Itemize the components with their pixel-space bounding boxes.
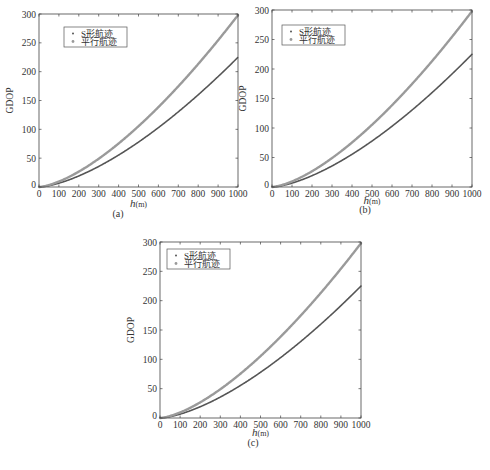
series-s-track <box>160 286 361 418</box>
y-tick-label: 0 <box>152 411 157 421</box>
y-tick-label: 200 <box>143 296 158 306</box>
y-axis-label: GDOP <box>126 317 136 343</box>
x-tick-label: 0 <box>158 420 163 430</box>
x-tick-label: 700 <box>294 420 309 430</box>
legend-dot-icon <box>175 255 177 257</box>
legend: S形航迹平行航迹 <box>167 249 230 269</box>
x-tick-label: 900 <box>334 420 349 430</box>
x-tick-label: 800 <box>314 420 329 430</box>
x-tick-label: 200 <box>193 420 208 430</box>
caption-c: (c) <box>233 437 273 448</box>
y-tick-label: 250 <box>143 267 158 277</box>
y-tick-label: 50 <box>148 384 158 394</box>
series-parallel-track <box>160 243 361 418</box>
caption-a: (a) <box>98 208 138 219</box>
y-tick-label: 150 <box>143 326 158 336</box>
x-tick-label: 100 <box>173 420 188 430</box>
x-tick-label: 600 <box>273 420 288 430</box>
chart-svg: 0100200300400500600700800900100005010015… <box>0 0 490 470</box>
x-tick-label: 400 <box>233 420 248 430</box>
legend-label: 平行航迹 <box>184 258 220 269</box>
x-tick-label: 300 <box>213 420 228 430</box>
y-tick-label: 300 <box>143 238 158 248</box>
legend-star-icon <box>175 262 178 265</box>
y-tick-label: 100 <box>143 355 158 365</box>
caption-b: (b) <box>345 204 385 215</box>
x-tick-label: 1000 <box>352 420 371 430</box>
